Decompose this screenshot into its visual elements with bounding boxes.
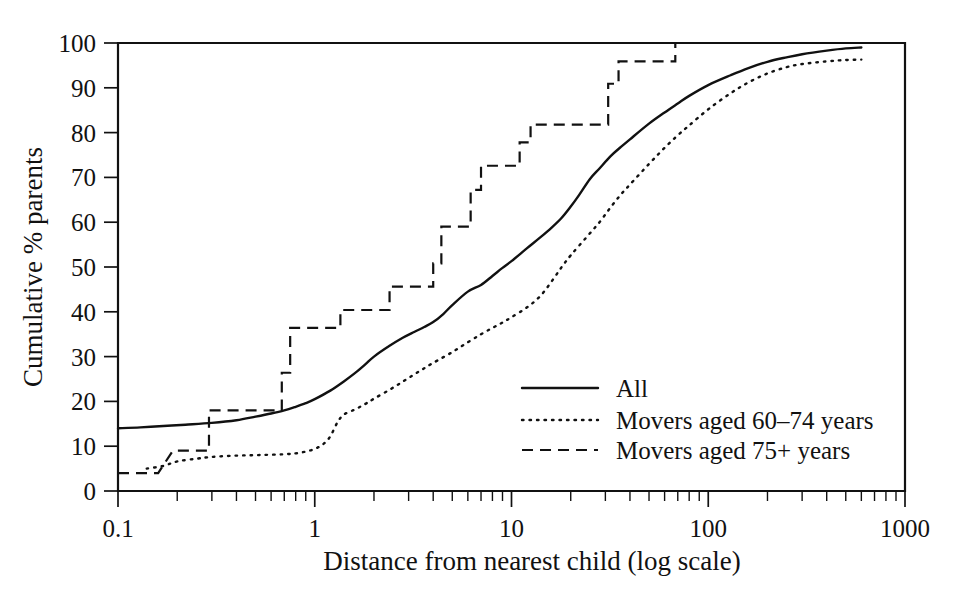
x-tick-label: 0.1 xyxy=(102,515,133,542)
y-axis-title: Cumulative % parents xyxy=(18,147,48,387)
legend-label-all: All xyxy=(616,375,648,402)
y-tick-label: 20 xyxy=(71,388,96,415)
y-tick-label: 80 xyxy=(71,120,96,147)
figure-container: 1009080706050403020100 0.11101001000 Dis… xyxy=(0,0,975,612)
y-tick-label: 100 xyxy=(59,30,97,57)
y-tick-label: 50 xyxy=(71,254,96,281)
y-tick-label: 60 xyxy=(71,209,96,236)
x-tick-label: 10 xyxy=(499,515,524,542)
y-tick-label: 90 xyxy=(71,75,96,102)
y-tick-label: 40 xyxy=(71,299,96,326)
x-tick-label: 1000 xyxy=(880,515,930,542)
x-axis-title: Distance from nearest child (log scale) xyxy=(323,546,741,576)
legend-label-movers-75plus: Movers aged 75+ years xyxy=(616,437,850,464)
cumulative-distribution-chart: 1009080706050403020100 0.11101001000 Dis… xyxy=(0,0,975,612)
chart-background xyxy=(0,0,975,612)
x-tick-label: 1 xyxy=(309,515,322,542)
y-tick-label: 10 xyxy=(71,433,96,460)
legend-label-movers-60-74: Movers aged 60–74 years xyxy=(616,407,874,434)
y-tick-label: 0 xyxy=(84,478,97,505)
y-tick-label: 70 xyxy=(71,164,96,191)
y-tick-label: 30 xyxy=(71,344,96,371)
x-tick-label: 100 xyxy=(690,515,728,542)
